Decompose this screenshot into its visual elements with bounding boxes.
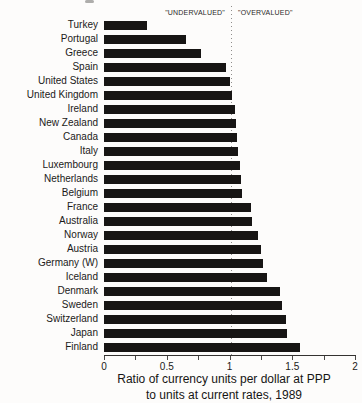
bar-row: Ireland [0,102,362,116]
value-bar [104,245,261,254]
value-bar [104,287,280,296]
x-axis-tick [230,356,231,360]
bar-row: Turkey [0,18,362,32]
bar-row: Spain [0,60,362,74]
value-bar [104,189,242,198]
x-axis-tick-label: 1.5 [277,361,307,372]
x-axis-tick [324,356,325,360]
bar-row: Netherlands [0,172,362,186]
value-bar [104,147,238,156]
country-label: Australia [0,214,104,228]
x-axis-tick [292,356,293,360]
bar-row: Australia [0,214,362,228]
overvalued-annotation: "OVERVALUED" [238,9,293,17]
bar-row: Luxembourg [0,158,362,172]
bar-row: Germany (W) [0,256,362,270]
bar-row: United Kingdom [0,88,362,102]
x-axis-tick [104,356,105,360]
country-label: Italy [0,144,104,158]
value-bar [104,259,263,268]
value-bar [104,329,287,338]
country-label: Luxembourg [0,158,104,172]
value-bar [104,35,186,44]
x-axis-tick-label: 0.5 [152,361,182,372]
bars-area: TurkeyPortugalGreeceSpainUnited StatesUn… [0,18,362,354]
country-label: Spain [0,60,104,74]
bar-row: New Zealand [0,116,362,130]
undervalued-annotation: "UNDERVALUED" [165,9,225,17]
country-label: United Kingdom [0,88,104,102]
value-bar [104,301,282,310]
bar-row: Belgium [0,186,362,200]
x-axis-tick [167,356,168,360]
country-label: Sweden [0,298,104,312]
value-bar [104,273,267,282]
x-axis-tick [198,356,199,360]
bar-row: Switzerland [0,312,362,326]
x-axis-tick-label: 0 [89,361,119,372]
x-axis-title-line1: Ratio of currency units per dollar at PP… [84,373,362,386]
value-bar [104,105,235,114]
country-label: Canada [0,130,104,144]
x-axis-tick [135,356,136,360]
bar-row: France [0,200,362,214]
x-axis-title-line2: to units at current rates, 1989 [84,389,362,402]
country-label: Portugal [0,32,104,46]
value-bar [104,21,147,30]
country-label: New Zealand [0,116,104,130]
x-axis-tick [261,356,262,360]
value-bar [104,203,251,212]
country-label: Turkey [0,18,104,32]
country-label: Japan [0,326,104,340]
country-label: Germany (W) [0,256,104,270]
country-label: Greece [0,46,104,60]
country-label: Iceland [0,270,104,284]
country-label: Belgium [0,186,104,200]
country-label: France [0,200,104,214]
value-bar [104,91,232,100]
bar-row: Sweden [0,298,362,312]
country-label: Switzerland [0,312,104,326]
bar-row: United States [0,74,362,88]
value-bar [104,175,241,184]
bar-row: Iceland [0,270,362,284]
bar-row: Finland [0,340,362,354]
country-label: Denmark [0,284,104,298]
bar-row: Canada [0,130,362,144]
value-bar [104,343,300,352]
bar-row: Denmark [0,284,362,298]
x-axis-tick-label: 2 [340,361,362,372]
country-label: United States [0,74,104,88]
value-bar [104,119,236,128]
country-label: Ireland [0,102,104,116]
country-label: Austria [0,242,104,256]
value-bar [104,77,230,86]
country-label: Netherlands [0,172,104,186]
bar-row: Austria [0,242,362,256]
bar-row: Italy [0,144,362,158]
value-bar [104,63,226,72]
country-label: Norway [0,228,104,242]
x-axis-tick-label: 1 [215,361,245,372]
bar-row: Greece [0,46,362,60]
x-axis-tick [355,356,356,360]
value-bar [104,133,237,142]
value-bar [104,231,258,240]
cropped-text-artifact [85,0,94,3]
value-bar [104,161,240,170]
ppp-bar-chart: "UNDERVALUED" "OVERVALUED" TurkeyPortuga… [0,0,362,403]
value-bar [104,49,201,58]
bar-row: Japan [0,326,362,340]
value-bar [104,217,252,226]
country-label: Finland [0,340,104,354]
bar-row: Norway [0,228,362,242]
value-bar [104,315,286,324]
bar-row: Portugal [0,32,362,46]
